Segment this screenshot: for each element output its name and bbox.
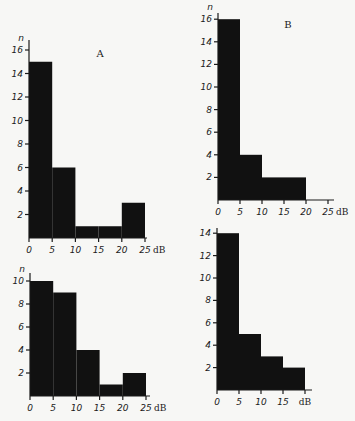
x-tick-label: 15 — [93, 245, 105, 255]
histogram-bar — [29, 62, 52, 238]
histogram-bar — [261, 356, 283, 390]
x-tick-label: 20 — [300, 207, 312, 217]
x-tick-label: 25 — [139, 245, 151, 255]
x-tick-label: 0 — [214, 397, 220, 407]
histogram-bar — [30, 281, 53, 396]
x-tick-label: 5 — [49, 245, 55, 255]
x-tick-label: 0 — [215, 207, 221, 217]
y-tick-label: 8 — [205, 295, 211, 305]
x-tick-label: 20 — [117, 403, 129, 413]
y-tick-label: 4 — [18, 345, 24, 355]
y-tick-label: 10 — [200, 273, 212, 283]
y-tick-label: 4 — [205, 340, 211, 350]
y-tick-label: 14 — [201, 37, 213, 47]
y-tick-label: 12 — [12, 92, 24, 102]
histogram-bar — [239, 334, 261, 390]
y-tick-label: 8 — [206, 105, 212, 115]
x-tick-label: 10 — [70, 245, 82, 255]
histogram-bar — [53, 293, 76, 397]
histogram-bar — [99, 226, 122, 238]
x-tick-label: 15 — [277, 397, 289, 407]
y-tick-label: 12 — [200, 251, 212, 261]
x-tick-label: 5 — [50, 403, 56, 413]
x-tick-label: 0 — [26, 245, 32, 255]
histogram-bar — [123, 373, 146, 396]
y-tick-label: 4 — [206, 150, 212, 160]
histogram-bar — [75, 226, 98, 238]
y-axis-label: n — [207, 2, 213, 12]
y-tick-label: 12 — [201, 59, 213, 69]
x-tick-label: 25 — [140, 403, 152, 413]
x-axis-unit-label: dB — [153, 245, 166, 255]
y-tick-label: 6 — [18, 322, 24, 332]
histogram-bar — [122, 203, 145, 238]
x-axis-unit-label: dB — [154, 403, 167, 413]
x-tick-label: 20 — [116, 245, 128, 255]
y-tick-label: 10 — [13, 276, 25, 286]
histogram-panel-d: 2468101214051015dB — [200, 228, 312, 407]
y-tick-label: 10 — [12, 116, 24, 126]
histogram-panel-a: 246810121416n0510152025dBA — [12, 33, 166, 255]
histogram-bar — [52, 168, 75, 239]
panel-label: A — [95, 48, 104, 59]
y-tick-label: 4 — [17, 186, 23, 196]
y-tick-label: 14 — [200, 228, 212, 238]
x-tick-label: 5 — [237, 207, 243, 217]
x-tick-label: 5 — [236, 397, 242, 407]
histogram-bar — [100, 385, 123, 397]
y-tick-label: 6 — [205, 318, 211, 328]
x-axis-unit-label: dB — [299, 397, 312, 407]
y-tick-label: 2 — [17, 210, 23, 220]
histogram-figure: 246810121416n0510152025dBA246810121416n0… — [0, 0, 355, 421]
histogram-panel-b: 246810121416n0510152025dBB — [201, 2, 349, 217]
histogram-bar — [76, 350, 99, 396]
x-tick-label: 25 — [322, 207, 334, 217]
y-axis-label: n — [18, 33, 24, 43]
panel-label: B — [284, 19, 291, 30]
x-tick-label: 10 — [71, 403, 83, 413]
y-tick-label: 2 — [206, 172, 212, 182]
y-tick-label: 16 — [12, 45, 24, 55]
histogram-bar — [284, 177, 306, 200]
histogram-bar — [240, 155, 262, 200]
histogram-panel-c: 246810n0510152025dB — [13, 264, 167, 413]
x-tick-label: 0 — [27, 403, 33, 413]
x-tick-label: 10 — [256, 207, 268, 217]
y-tick-label: 6 — [17, 163, 23, 173]
x-tick-label: 15 — [278, 207, 290, 217]
y-tick-label: 2 — [205, 363, 211, 373]
x-tick-label: 10 — [255, 397, 267, 407]
y-axis-label: n — [19, 264, 25, 274]
x-tick-label: 15 — [94, 403, 106, 413]
histogram-bar — [217, 233, 239, 390]
y-tick-label: 16 — [201, 14, 213, 24]
y-tick-label: 14 — [12, 69, 24, 79]
y-tick-label: 6 — [206, 127, 212, 137]
histogram-bar — [262, 177, 284, 200]
histogram-bar — [218, 19, 240, 200]
y-tick-label: 8 — [17, 139, 23, 149]
y-tick-label: 10 — [201, 82, 213, 92]
y-tick-label: 2 — [18, 368, 24, 378]
histogram-bar — [283, 368, 305, 390]
x-axis-unit-label: dB — [336, 207, 349, 217]
y-tick-label: 8 — [18, 299, 24, 309]
